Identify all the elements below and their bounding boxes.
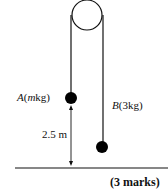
mass-b-letter: B	[112, 99, 119, 111]
mass-a-unit: kg	[35, 91, 46, 103]
arrow-up-icon	[69, 105, 73, 110]
mass-b-label: B(3kg)	[112, 100, 143, 111]
arrow-down-icon	[69, 161, 73, 166]
mass-a-ball	[65, 92, 77, 104]
marks-label: (3 marks)	[110, 176, 160, 188]
pulley-wheel	[72, 0, 102, 30]
mass-b-ball	[96, 141, 108, 153]
mass-a-label: A(mkg)	[17, 92, 50, 103]
mass-b-unit: kg	[128, 99, 139, 111]
mass-a-letter: A	[17, 91, 24, 103]
height-label: 2.5 m	[42, 129, 67, 140]
